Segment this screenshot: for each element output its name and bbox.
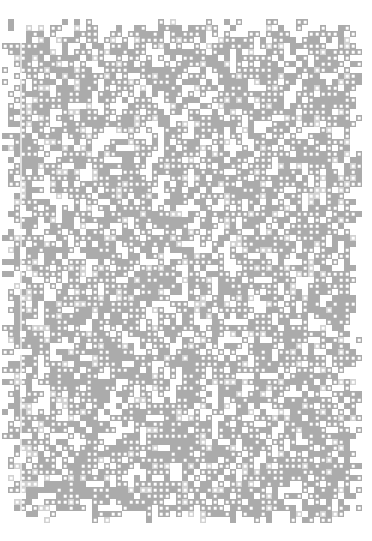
- pattern-module: [230, 517, 236, 523]
- pattern-module: [326, 37, 332, 43]
- pattern-module: [8, 25, 14, 31]
- pattern-module: [350, 433, 356, 439]
- pattern-module: [152, 145, 158, 151]
- pattern-module: [122, 469, 128, 475]
- pattern-module: [14, 451, 20, 457]
- pattern-module: [290, 79, 296, 85]
- pattern-module: [2, 409, 8, 415]
- pattern-module: [80, 163, 86, 169]
- pattern-module: [284, 385, 290, 391]
- pattern-module: [80, 319, 86, 325]
- pattern-module: [224, 139, 230, 145]
- pattern-module: [200, 91, 206, 97]
- pattern-module: [266, 517, 272, 523]
- pattern-module: [32, 511, 38, 517]
- pattern-module: [350, 217, 356, 223]
- pattern-module: [98, 127, 104, 133]
- pattern-module: [296, 127, 302, 133]
- pattern-module: [356, 79, 362, 85]
- pattern-module: [212, 199, 218, 205]
- pattern-module: [356, 487, 362, 493]
- pattern-module: [146, 517, 152, 523]
- pattern-module: [2, 67, 8, 73]
- pattern-module: [350, 307, 356, 313]
- pattern-module: [356, 181, 362, 187]
- pattern-module: [200, 241, 206, 247]
- pattern-module: [152, 181, 158, 187]
- pattern-module: [176, 289, 182, 295]
- pattern-module: [164, 385, 170, 391]
- pattern-module: [236, 19, 242, 25]
- pattern-module: [116, 511, 122, 517]
- pattern-module: [224, 403, 230, 409]
- pattern-module: [350, 31, 356, 37]
- pattern-module: [140, 163, 146, 169]
- pattern-module: [344, 319, 350, 325]
- pattern-module: [56, 337, 62, 343]
- pattern-module: [218, 241, 224, 247]
- pattern-module: [350, 265, 356, 271]
- pattern-module: [2, 79, 8, 85]
- pattern-module: [32, 223, 38, 229]
- pattern-module: [338, 367, 344, 373]
- pattern-module: [182, 199, 188, 205]
- pattern-module: [356, 337, 362, 343]
- pattern-module: [134, 127, 140, 133]
- pattern-module: [356, 355, 362, 361]
- pattern-module: [350, 103, 356, 109]
- pattern-module: [182, 127, 188, 133]
- pattern-module: [164, 493, 170, 499]
- pattern-module: [146, 151, 152, 157]
- pattern-module: [212, 223, 218, 229]
- pattern-module: [344, 187, 350, 193]
- pattern-module: [206, 391, 212, 397]
- pattern-module: [128, 463, 134, 469]
- pattern-module: [356, 115, 362, 121]
- pattern-module: [356, 49, 362, 55]
- pattern-module: [224, 313, 230, 319]
- pattern-module: [284, 85, 290, 91]
- pattern-module: [350, 493, 356, 499]
- pattern-module: [32, 313, 38, 319]
- pattern-module: [110, 427, 116, 433]
- pattern-module: [356, 475, 362, 481]
- dot-matrix-pattern: [0, 0, 372, 541]
- pattern-module: [350, 361, 356, 367]
- pattern-module: [296, 25, 302, 31]
- pattern-module: [176, 511, 182, 517]
- pattern-module: [308, 517, 314, 523]
- pattern-module: [56, 409, 62, 415]
- pattern-module: [350, 121, 356, 127]
- pattern-module: [356, 61, 362, 67]
- pattern-module: [104, 397, 110, 403]
- pattern-module: [302, 19, 308, 25]
- pattern-module: [356, 397, 362, 403]
- pattern-module: [32, 493, 38, 499]
- pattern-module: [170, 373, 176, 379]
- pattern-module: [188, 511, 194, 517]
- pattern-module: [176, 109, 182, 115]
- pattern-module: [170, 337, 176, 343]
- pattern-module: [98, 367, 104, 373]
- pattern-canvas: [0, 0, 372, 541]
- pattern-module: [38, 175, 44, 181]
- pattern-module: [8, 349, 14, 355]
- pattern-module: [254, 451, 260, 457]
- pattern-module: [164, 511, 170, 517]
- pattern-module: [350, 85, 356, 91]
- pattern-module: [92, 517, 98, 523]
- pattern-module: [350, 277, 356, 283]
- pattern-module: [254, 517, 260, 523]
- pattern-module: [350, 451, 356, 457]
- pattern-module: [104, 517, 110, 523]
- pattern-module: [350, 241, 356, 247]
- pattern-module: [188, 235, 194, 241]
- pattern-module: [218, 331, 224, 337]
- pattern-module: [200, 517, 206, 523]
- pattern-module: [356, 427, 362, 433]
- pattern-module: [152, 193, 158, 199]
- pattern-module: [248, 295, 254, 301]
- pattern-module: [272, 421, 278, 427]
- pattern-module: [230, 25, 236, 31]
- pattern-module: [50, 511, 56, 517]
